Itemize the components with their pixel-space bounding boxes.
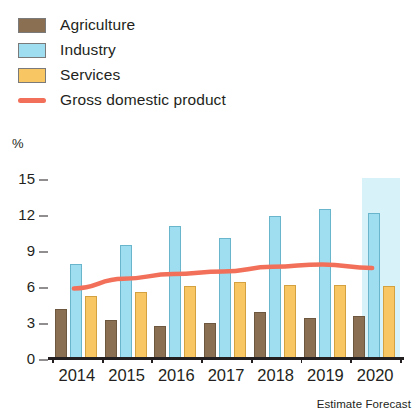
gdp-line-series: [52, 178, 400, 358]
x-axis-label-2014: 2014: [49, 366, 105, 385]
legend-label-services: Services: [60, 66, 120, 84]
chart-legend: Agriculture Industry Services Gross dome…: [18, 14, 338, 114]
legend-item-agriculture: Agriculture: [18, 14, 338, 36]
y-axis-tick-3: 3: [9, 314, 48, 331]
x-axis-tick-2014: [52, 357, 54, 363]
x-axis-label-2017: 2017: [198, 366, 254, 385]
x-axis-label-2020: 2020: [347, 366, 403, 385]
x-axis-tick-2020: [350, 357, 352, 363]
x-axis-tick-2018: [251, 357, 253, 363]
legend-item-industry: Industry: [18, 39, 338, 61]
legend-label-industry: Industry: [60, 41, 116, 59]
y-axis-tick-6: 6: [9, 278, 48, 295]
y-axis-tick-15: 15: [9, 170, 48, 187]
x-axis-tick-2015: [102, 357, 104, 363]
y-axis-tick-12: 12: [9, 206, 48, 223]
legend-item-gdp: Gross domestic product: [18, 89, 338, 111]
legend-label-gdp: Gross domestic product: [60, 91, 226, 109]
x-axis-label-2016: 2016: [148, 366, 204, 385]
y-axis-tick-9: 9: [9, 242, 48, 259]
x-axis-tick-2019: [301, 357, 303, 363]
x-axis-tick-end: [400, 357, 402, 363]
x-axis-label-2018: 2018: [248, 366, 304, 385]
legend-label-agriculture: Agriculture: [60, 16, 135, 34]
y-axis: 15129630: [0, 0, 48, 420]
estimate-forecast-annotation: Estimate Forecast: [317, 398, 411, 410]
x-axis-label-2019: 2019: [297, 366, 353, 385]
x-axis-label-2015: 2015: [99, 366, 155, 385]
x-axis-tick-2016: [151, 357, 153, 363]
x-axis-tick-2017: [201, 357, 203, 363]
legend-item-services: Services: [18, 64, 338, 86]
y-axis-tick-0: 0: [9, 350, 48, 367]
gdp-line-path: [74, 264, 372, 288]
